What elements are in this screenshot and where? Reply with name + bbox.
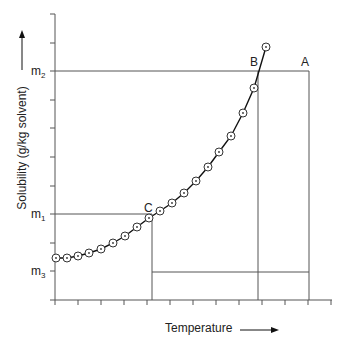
solubility-curve [56, 47, 266, 258]
point-b-label: B [250, 55, 258, 69]
y-axis-label: Solubility (g/kg solvent) [15, 86, 29, 209]
x-arrow-icon [271, 327, 279, 333]
point-c-label: C [144, 201, 153, 215]
solubility-diagram: m2 m1 m3 A B C Temperature Solubility (g… [0, 0, 346, 350]
data-point-dot [171, 202, 173, 204]
m2-label: m2 [31, 64, 46, 80]
data-point-dot [230, 135, 232, 137]
data-point-dot [207, 166, 209, 168]
point-a-label: A [301, 55, 309, 69]
x-axis-label: Temperature [165, 321, 233, 335]
data-point-dot [242, 112, 244, 114]
curve-markers [52, 43, 270, 262]
m3-label: m3 [31, 264, 46, 280]
x-axis-ticks [55, 300, 331, 305]
data-point-dot [253, 87, 255, 89]
data-point-dot [112, 242, 114, 244]
data-point-dot [66, 257, 68, 259]
data-point-dot [88, 252, 90, 254]
data-point-dot [265, 46, 267, 48]
data-point-dot [124, 235, 126, 237]
data-point-dot [159, 210, 161, 212]
y-arrow-icon [19, 30, 25, 38]
data-point-dot [183, 192, 185, 194]
data-point-dot [218, 151, 220, 153]
data-point-dot [148, 217, 150, 219]
data-point-dot [195, 180, 197, 182]
data-point-dot [136, 226, 138, 228]
data-point-dot [100, 248, 102, 250]
data-point-dot [55, 257, 57, 259]
data-point-dot [77, 255, 79, 257]
m1-label: m1 [31, 207, 46, 223]
